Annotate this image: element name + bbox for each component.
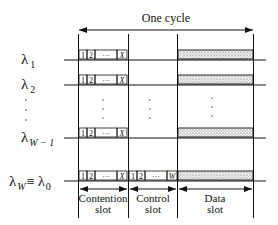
- lambda-w-minus-1: λW − 1: [21, 129, 54, 148]
- svg-text:X: X: [119, 129, 126, 138]
- svg-text:2: 2: [89, 172, 93, 181]
- contention-minislots: [79, 50, 127, 180]
- svg-text:2: 2: [89, 129, 93, 138]
- contention-labels: 1 2 ··· X 1 2 ··· X 1 2 ··· X 1 2 ··· X: [81, 51, 126, 181]
- wavelength-labels: λ1 λ2 λW − 1 λW≡ λ0: [9, 51, 54, 192]
- control-labels: 1 2 ··· W: [131, 172, 177, 181]
- svg-text:1: 1: [81, 129, 85, 138]
- svg-text:slot: slot: [145, 203, 161, 215]
- wdm-cycle-diagram: One cycle 1 2 ··· X: [0, 0, 278, 225]
- svg-text:X: X: [119, 172, 126, 181]
- svg-text:W: W: [169, 172, 177, 181]
- svg-text:X: X: [119, 76, 126, 85]
- svg-text:1: 1: [81, 51, 85, 60]
- ellipsis-dots: [25, 97, 213, 120]
- svg-text:slot: slot: [207, 203, 223, 215]
- lambda-1: λ1: [21, 51, 35, 70]
- svg-text:···: ···: [102, 76, 110, 85]
- svg-text:1: 1: [81, 76, 85, 85]
- svg-text:···: ···: [102, 129, 110, 138]
- svg-text:···: ···: [152, 172, 160, 181]
- svg-text:2: 2: [139, 172, 143, 181]
- svg-text:···: ···: [102, 51, 110, 60]
- one-cycle-label: One cycle: [142, 11, 190, 25]
- svg-text:···: ···: [102, 172, 110, 181]
- lambda-w: λW≡ λ0: [9, 173, 51, 192]
- slot-labels: Contention slot Control slot Data slot: [79, 192, 226, 215]
- svg-text:2: 2: [89, 51, 93, 60]
- svg-text:1: 1: [81, 172, 85, 181]
- lambda-2: λ2: [21, 76, 35, 95]
- svg-text:2: 2: [89, 76, 93, 85]
- slot-boundaries: [79, 34, 254, 218]
- svg-text:1: 1: [131, 172, 135, 181]
- svg-text:slot: slot: [95, 203, 111, 215]
- svg-text:X: X: [119, 51, 126, 60]
- data-blocks: [178, 50, 253, 180]
